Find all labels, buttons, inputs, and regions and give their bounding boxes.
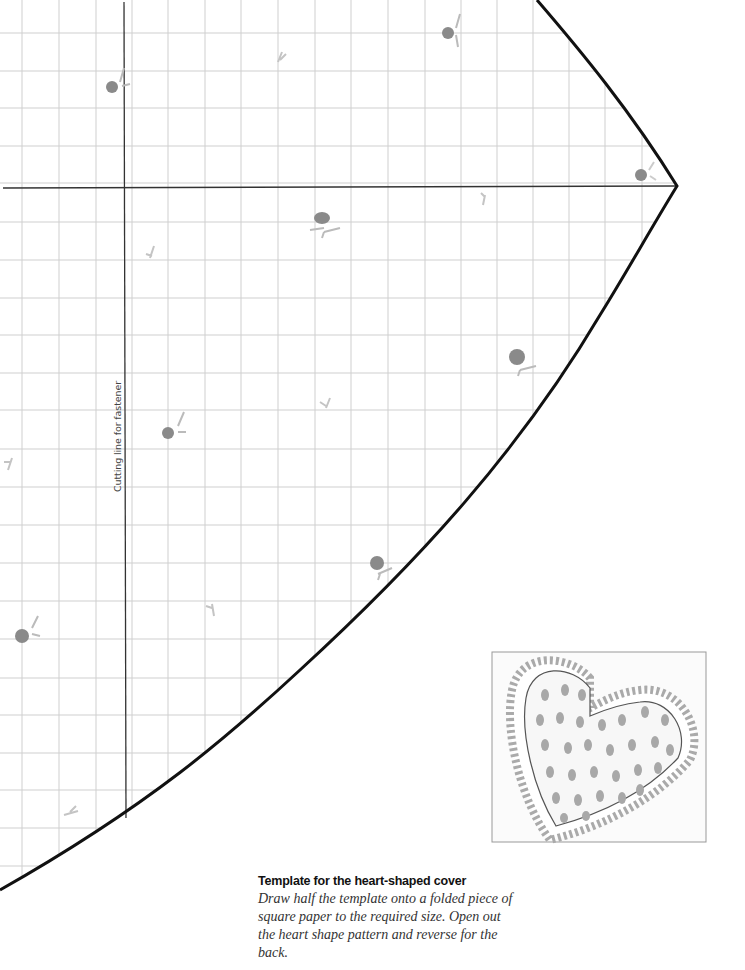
fold-line xyxy=(3,186,677,188)
flower-icon xyxy=(442,14,460,47)
flower-icon xyxy=(370,556,392,580)
flower-icon xyxy=(106,68,130,93)
heart-cushion-illustration xyxy=(490,650,708,845)
caption-title: Template for the heart-shaped cover xyxy=(258,874,518,888)
caption: Template for the heart-shaped cover Draw… xyxy=(258,874,518,962)
template-page: Cutting line for fastener Template for t… xyxy=(0,0,745,970)
caption-body: Draw half the template onto a folded pie… xyxy=(258,890,518,962)
leaf-sprigs xyxy=(4,52,485,815)
cutting-line-label: Cutting line for fastener xyxy=(112,400,124,492)
flower-icon xyxy=(509,349,536,376)
flower-icon xyxy=(162,412,186,439)
flower-icon xyxy=(635,162,656,181)
